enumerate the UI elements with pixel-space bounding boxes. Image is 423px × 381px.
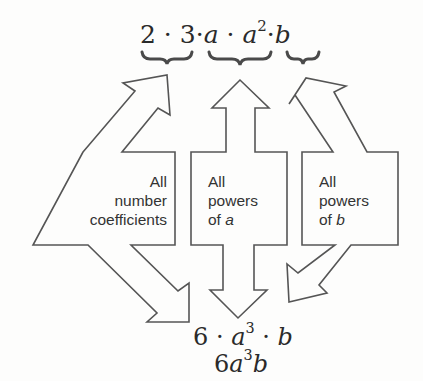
brace-powers-b	[287, 52, 319, 64]
label-coefficients: All number coefficients	[40, 172, 167, 229]
coefficient-3: 3	[180, 20, 196, 49]
variable-a: a	[242, 20, 257, 49]
exponent: 2	[257, 17, 267, 35]
coefficient-2: 2	[140, 20, 156, 49]
dot-operator: ·	[164, 20, 172, 49]
label-powers-b: All powers of b	[319, 172, 369, 229]
label-powers-a: All powers of a	[208, 172, 258, 229]
top-expression: 2 · 3·a · a2·b	[140, 20, 291, 49]
dot-operator: ·	[226, 20, 234, 49]
brace-coefficients	[142, 52, 192, 64]
dot-operator: ·	[196, 20, 204, 49]
variable-a: a	[225, 211, 234, 228]
dot-operator: ·	[267, 20, 275, 49]
result-simplified: 6a3b	[214, 350, 268, 378]
brace-powers-a	[209, 52, 271, 65]
variable-a: a	[204, 20, 219, 49]
variable-b: b	[275, 20, 291, 49]
variable-b: b	[336, 211, 345, 228]
